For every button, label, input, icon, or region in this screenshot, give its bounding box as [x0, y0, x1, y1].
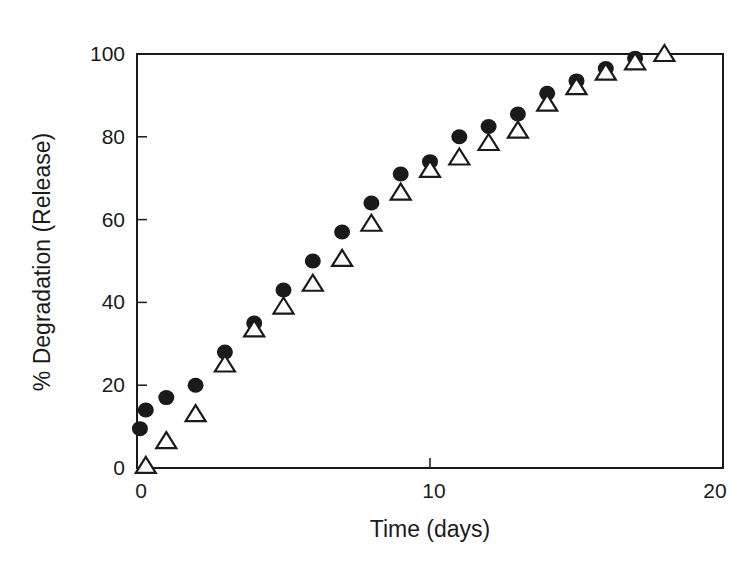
triangle-marker — [332, 250, 352, 266]
triangle-marker — [361, 215, 381, 231]
y-tick-label: 80 — [102, 125, 125, 148]
circle-marker — [451, 129, 467, 144]
triangle-marker — [274, 298, 294, 314]
y-axis-label: % Degradation (Release) — [29, 133, 55, 391]
triangle-marker — [156, 432, 176, 448]
triangle-marker — [215, 356, 235, 372]
triangle-marker — [391, 184, 411, 200]
circle-marker — [481, 119, 497, 134]
x-axis-label: Time (days) — [370, 516, 491, 542]
plot-frame — [137, 54, 723, 468]
triangle-marker — [537, 95, 557, 111]
circle-marker — [188, 378, 204, 393]
y-tick-label: 100 — [90, 42, 125, 65]
series-open-triangles — [136, 45, 675, 473]
x-tick-label: 10 — [422, 479, 445, 502]
y-tick-label: 20 — [102, 373, 125, 396]
y-tick-label: 0 — [113, 456, 125, 479]
triangle-marker — [449, 149, 469, 165]
circle-marker — [132, 421, 148, 436]
y-axis: 020406080100 — [90, 42, 147, 479]
triangle-marker — [136, 457, 156, 473]
circle-marker — [393, 167, 409, 182]
circle-marker — [276, 282, 292, 297]
triangle-marker — [479, 134, 499, 150]
circle-marker — [158, 390, 174, 405]
triangle-marker — [508, 122, 528, 138]
circle-marker — [363, 196, 379, 211]
triangle-marker — [186, 405, 206, 421]
x-tick-label: 20 — [703, 479, 726, 502]
series-filled-circles — [132, 51, 643, 437]
x-axis: 01020 — [135, 458, 727, 502]
scatter-chart: 020406080100 01020 Time (days) % Degrada… — [0, 0, 755, 571]
circle-marker — [334, 225, 350, 240]
circle-marker — [138, 403, 154, 418]
plot-border — [137, 54, 723, 468]
y-tick-label: 40 — [102, 290, 125, 313]
circle-marker — [510, 107, 526, 122]
circle-marker — [305, 254, 321, 269]
data-series — [132, 45, 674, 473]
x-tick-label: 0 — [135, 479, 147, 502]
triangle-marker — [303, 275, 323, 291]
y-tick-label: 60 — [102, 208, 125, 231]
